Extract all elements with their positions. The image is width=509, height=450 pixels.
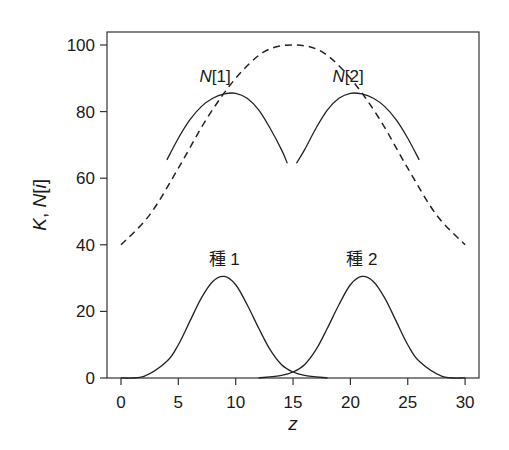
plot-frame — [107, 32, 479, 378]
x-tick-label: 20 — [341, 393, 360, 412]
y-tick-label: 0 — [86, 369, 95, 388]
curve-annotation: N[1] — [199, 67, 230, 86]
y-tick-label: 100 — [67, 36, 95, 55]
y-tick-label: 60 — [76, 169, 95, 188]
series--2 — [259, 276, 465, 378]
curve-annotation: 種 2 — [346, 250, 377, 269]
y-tick-label: 20 — [76, 302, 95, 321]
series--1 — [121, 276, 327, 378]
y-tick-label: 80 — [76, 103, 95, 122]
x-tick-label: 0 — [116, 393, 125, 412]
curve-annotation: N[2] — [333, 67, 364, 86]
y-axis-label: K, N[i] — [29, 179, 50, 231]
y-tick-label: 40 — [76, 236, 95, 255]
plot-border — [107, 32, 479, 378]
series-n-1- — [167, 93, 287, 163]
x-tick-label: 30 — [456, 393, 475, 412]
x-tick-label: 25 — [398, 393, 417, 412]
series-k — [121, 45, 465, 245]
x-tick-label: 15 — [284, 393, 303, 412]
chart: 051015202530020406080100 N[1]N[2]種 1種 2z… — [0, 0, 509, 450]
series-n-2- — [296, 93, 419, 163]
x-tick-label: 10 — [226, 393, 245, 412]
axis-ticks: 051015202530020406080100 — [67, 36, 475, 412]
curve-annotation: 種 1 — [209, 250, 240, 269]
x-tick-label: 5 — [174, 393, 183, 412]
curves — [121, 45, 465, 378]
x-axis-label: z — [287, 413, 298, 434]
